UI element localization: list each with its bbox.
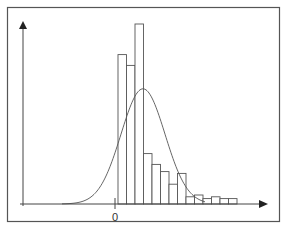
histogram-bar: [220, 199, 229, 204]
histogram-bar: [161, 172, 170, 204]
histogram-chart: 0: [0, 0, 285, 228]
histogram-bar: [152, 164, 161, 204]
histogram-bar: [178, 173, 187, 204]
histogram-bar: [144, 154, 153, 204]
histogram-bar: [212, 197, 221, 204]
histogram-bar: [229, 199, 238, 204]
histogram-bar: [169, 184, 178, 204]
histogram-bar: [127, 65, 136, 204]
histogram-bar: [135, 24, 144, 204]
zero-tick-label: 0: [112, 211, 118, 223]
chart-container: 0: [0, 0, 285, 228]
histogram-bar: [186, 197, 195, 204]
